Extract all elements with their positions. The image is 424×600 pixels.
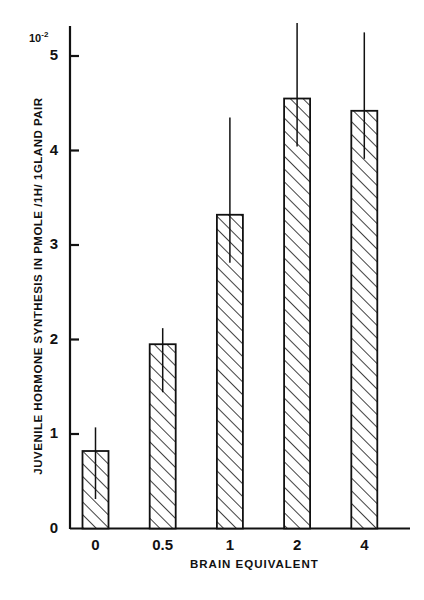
x-axis-category-label: 1: [200, 536, 260, 553]
y-axis-tick-label: 1: [28, 424, 58, 441]
y-axis-tick-label: 4: [28, 141, 58, 158]
x-axis-category-label: 2: [267, 536, 327, 553]
y-axis-tick-label: 0: [28, 519, 58, 536]
y-axis-ticks: [70, 56, 79, 434]
y-axis-tick-label: 2: [28, 330, 58, 347]
bar: [284, 99, 310, 529]
y-axis-tick-label: 3: [28, 235, 58, 252]
x-axis-category-label: 4: [334, 536, 394, 553]
x-axis-category-label: 0.5: [133, 536, 193, 553]
plot-area: [0, 0, 424, 600]
bar-chart-figure: 10-2 JUVENILE HORMONE SYNTHESIS IN PMOLE…: [0, 0, 424, 600]
x-axis-category-label: 0: [66, 536, 126, 553]
y-axis-tick-label: 5: [28, 46, 58, 63]
bar: [351, 111, 377, 529]
